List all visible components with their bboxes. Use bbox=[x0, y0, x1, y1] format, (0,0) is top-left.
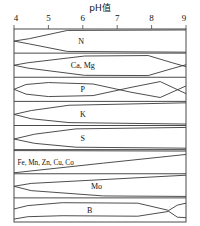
band-n: N bbox=[14, 30, 186, 52]
band-p: P bbox=[14, 77, 186, 97]
band-lower-edge bbox=[14, 211, 186, 219]
band-mo: Mo bbox=[14, 174, 186, 197]
band-label: P bbox=[81, 85, 86, 94]
band-fe-mn-zn-cu-co: Fe, Mn, Zn, Cu, Co bbox=[14, 150, 186, 173]
band-upper-edge bbox=[14, 103, 186, 115]
band-label: Ca, Mg bbox=[71, 61, 95, 70]
band-upper-edge bbox=[14, 203, 186, 211]
band-b: B bbox=[14, 198, 186, 219]
band-label: S bbox=[81, 134, 85, 143]
band-upper-edge bbox=[14, 56, 186, 67]
band-s: S bbox=[14, 126, 186, 149]
band-lower-edge bbox=[14, 82, 186, 97]
chart-root: pH值 456789 NCa, MgPKSFe, Mn, Zn, Cu, CoM… bbox=[0, 0, 200, 226]
band-upper-edge bbox=[14, 127, 186, 139]
band-upper-edge bbox=[14, 30, 186, 41]
band-lower-edge bbox=[14, 114, 186, 124]
band-k: K bbox=[14, 101, 186, 124]
band-label: Fe, Mn, Zn, Cu, Co bbox=[17, 159, 74, 167]
band-label: N bbox=[78, 37, 84, 46]
band-lower-edge bbox=[14, 65, 186, 76]
band-ca-mg: Ca, Mg bbox=[14, 53, 186, 75]
band-label: Mo bbox=[91, 182, 102, 191]
band-lower-edge bbox=[14, 41, 186, 52]
band-lower-edge bbox=[14, 139, 186, 148]
band-label: B bbox=[87, 206, 92, 215]
nutrient-availability-plot: NCa, MgPKSFe, Mn, Zn, Cu, CoMoB bbox=[0, 0, 200, 226]
band-label: K bbox=[80, 110, 86, 119]
